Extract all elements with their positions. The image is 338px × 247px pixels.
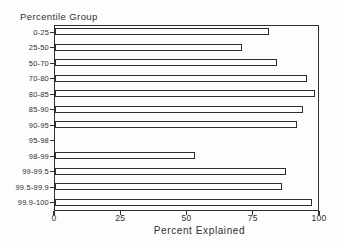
y-axis-tick bbox=[50, 94, 54, 95]
x-tick-label: 25 bbox=[105, 213, 135, 223]
category-label: 25-50 bbox=[0, 43, 49, 52]
bar-0-25 bbox=[55, 28, 269, 35]
bar-98-99 bbox=[55, 152, 195, 159]
category-label: 95-98 bbox=[0, 136, 49, 145]
y-axis-tick bbox=[50, 63, 54, 64]
y-axis-tick bbox=[50, 78, 54, 79]
x-tick-label: 0 bbox=[39, 213, 69, 223]
y-axis-tick bbox=[50, 187, 54, 188]
category-label: 70-80 bbox=[0, 74, 49, 83]
category-label: 99.9-100 bbox=[0, 198, 49, 207]
bar-90-95 bbox=[55, 121, 297, 128]
y-axis-tick bbox=[50, 109, 54, 110]
category-label: 80-85 bbox=[0, 90, 49, 99]
y-axis-tick bbox=[50, 171, 54, 172]
category-label: 50-70 bbox=[0, 59, 49, 68]
chart-title: Percentile Group bbox=[20, 11, 98, 22]
category-label: 0-25 bbox=[0, 28, 49, 37]
y-axis-tick bbox=[50, 156, 54, 157]
x-tick-label: 75 bbox=[238, 213, 268, 223]
bar-25-50 bbox=[55, 44, 242, 51]
category-label: 85-90 bbox=[0, 105, 49, 114]
category-label: 90-95 bbox=[0, 121, 49, 130]
y-axis-tick bbox=[50, 32, 54, 33]
y-axis-tick bbox=[50, 47, 54, 48]
y-axis-tick bbox=[50, 125, 54, 126]
bar-99.5-99.9 bbox=[55, 183, 282, 190]
x-axis-label: Percent Explained bbox=[67, 225, 332, 236]
x-tick-label: 100 bbox=[304, 213, 334, 223]
bar-50-70 bbox=[55, 59, 277, 66]
bar-chart: Percentile Group Percent Explained 0-252… bbox=[0, 0, 338, 247]
bar-80-85 bbox=[55, 90, 315, 97]
bar-99-99.5 bbox=[55, 168, 286, 175]
category-label: 99-99.5 bbox=[0, 167, 49, 176]
y-axis-tick bbox=[50, 202, 54, 203]
category-label: 98-99 bbox=[0, 152, 49, 161]
x-tick-label: 50 bbox=[172, 213, 202, 223]
bar-99.9-100 bbox=[55, 199, 312, 206]
y-axis-tick bbox=[50, 140, 54, 141]
bar-70-80 bbox=[55, 75, 307, 82]
category-label: 99.5-99.9 bbox=[0, 183, 49, 192]
bar-85-90 bbox=[55, 106, 303, 113]
